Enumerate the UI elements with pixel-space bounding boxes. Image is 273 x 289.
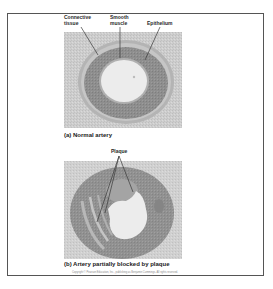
copyright-notice: Copyright © Pearson Education, Inc., pub… xyxy=(72,271,178,274)
caption-blocked-artery: (b) Artery partially blocked by plaque xyxy=(64,261,169,267)
caption-normal-artery: (a) Normal artery xyxy=(64,132,112,138)
blocked-artery-illustration xyxy=(64,161,182,259)
blocked-artery-micrograph xyxy=(64,161,182,259)
label-line: Epithelium xyxy=(147,21,173,27)
normal-artery-illustration xyxy=(64,32,182,128)
label-plaque: Plaque xyxy=(111,149,127,155)
normal-artery-micrograph xyxy=(64,32,182,128)
label-line: Plaque xyxy=(111,149,127,155)
label-connective-tissue: Connective tissue xyxy=(64,15,91,26)
label-line: tissue xyxy=(64,21,91,27)
label-smooth-muscle: Smooth muscle xyxy=(110,15,129,26)
label-line: muscle xyxy=(110,21,129,27)
label-epithelium: Epithelium xyxy=(147,21,173,27)
